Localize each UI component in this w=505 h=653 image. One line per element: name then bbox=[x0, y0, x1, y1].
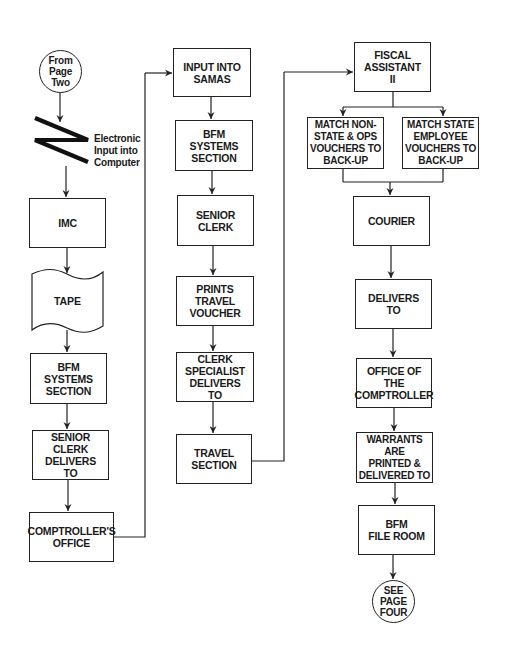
warrants-printed-box: WARRANTS ARE PRINTED & DELIVERED TO bbox=[356, 432, 433, 483]
comptrollers-office-box: COMPTROLLER'S OFFICE bbox=[29, 512, 114, 562]
see-page-four-connector: SEE PAGE FOUR bbox=[372, 580, 415, 623]
match-non-state-box: MATCH NON- STATE & OPS VOUCHERS TO BACK-… bbox=[307, 117, 384, 169]
senior-clerk-box: SENIOR CLERK bbox=[177, 195, 254, 246]
input-into-samas-box: INPUT INTO SAMAS bbox=[173, 48, 251, 97]
courier-box: COURIER bbox=[353, 196, 430, 246]
flowchart-canvas: From Page Two Electronic Input into Comp… bbox=[0, 0, 505, 653]
tape-label: TAPE bbox=[32, 280, 103, 322]
prints-travel-voucher-box: PRINTS TRAVEL VOUCHER bbox=[176, 276, 254, 326]
bfm-file-room-box: BFM FILE ROOM bbox=[358, 505, 435, 555]
match-state-employee-box: MATCH STATE EMPLOYEE VOUCHERS TO BACK-UP bbox=[402, 117, 479, 169]
clerk-specialist-box: CLERK SPECIALIST DELIVERS TO bbox=[176, 352, 254, 402]
bfm-systems-section-box: BFM SYSTEMS SECTION bbox=[30, 353, 107, 404]
electronic-input-label: Electronic Input into Computer bbox=[94, 133, 174, 169]
travel-section-box: TRAVEL SECTION bbox=[176, 434, 252, 484]
bfm-systems-section-box-2: BFM SYSTEMS SECTION bbox=[175, 120, 253, 171]
fiscal-assistant-box: FISCAL ASSISTANT II bbox=[354, 42, 431, 92]
senior-clerk-delivers-box: SENIOR CLERK DELIVERS TO bbox=[32, 430, 109, 480]
delivers-to-box: DELIVERS TO bbox=[355, 279, 432, 329]
imc-box: IMC bbox=[29, 198, 106, 248]
communication-link-icon bbox=[34, 112, 89, 162]
office-of-the-comptroller-box: OFFICE OF THE COMPTROLLER bbox=[356, 358, 432, 408]
from-page-two-connector: From Page Two bbox=[39, 50, 82, 93]
